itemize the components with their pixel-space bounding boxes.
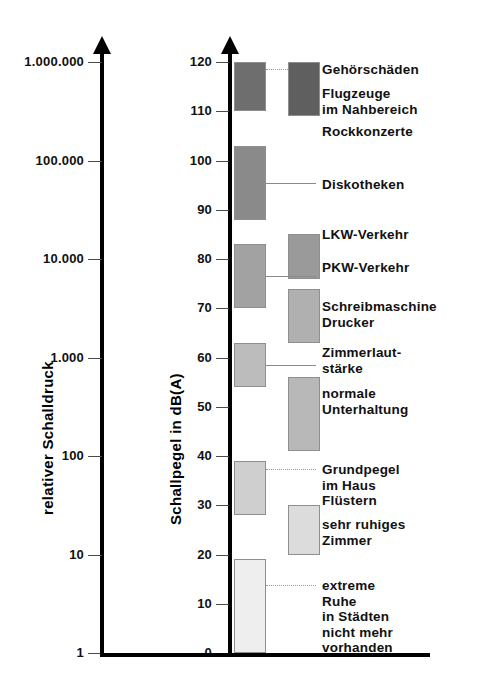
left-axis-tick-label: 1.000 bbox=[0, 350, 84, 365]
left-axis-line bbox=[100, 52, 104, 656]
noise-range-bar bbox=[288, 62, 320, 116]
left-axis-tick-label: 1.000.000 bbox=[0, 54, 84, 69]
noise-range-bar bbox=[288, 289, 320, 343]
db-axis-tick-label: 100 bbox=[176, 153, 212, 168]
db-axis-tick bbox=[216, 210, 229, 211]
left-axis-tick bbox=[88, 358, 102, 359]
noise-range-bar bbox=[288, 234, 320, 278]
category-label: Diskotheken bbox=[322, 177, 404, 193]
category-label: Zimmerlaut- stärke bbox=[322, 345, 401, 376]
left-axis-tick-label: 10 bbox=[0, 547, 84, 562]
category-label: Schreibmaschine Drucker bbox=[322, 299, 437, 330]
label-leader-line bbox=[266, 585, 316, 586]
left-axis-tick-label: 100 bbox=[0, 448, 84, 463]
noise-level-chart: relativer Schalldruck 1.000.000100.00010… bbox=[0, 0, 478, 678]
db-axis-tick bbox=[216, 555, 229, 556]
noise-range-bar bbox=[288, 505, 320, 554]
db-axis-tick bbox=[216, 358, 229, 359]
db-axis-tick-label: 80 bbox=[176, 251, 212, 266]
noise-range-bar bbox=[234, 343, 266, 387]
db-axis-tick-label: 30 bbox=[176, 497, 212, 512]
noise-range-bar bbox=[288, 377, 320, 451]
noise-range-bar bbox=[234, 244, 266, 308]
category-label: sehr ruhiges Zimmer bbox=[322, 517, 405, 548]
category-label: Gehörschäden bbox=[322, 62, 419, 78]
label-leader-line bbox=[266, 276, 316, 277]
label-leader-line bbox=[266, 365, 316, 366]
left-axis-title: relativer Schalldruck bbox=[39, 361, 56, 515]
left-axis-tick bbox=[88, 259, 102, 260]
noise-range-bar bbox=[234, 559, 266, 653]
left-axis-tick-label: 1 bbox=[0, 645, 84, 660]
db-axis-tick bbox=[216, 111, 229, 112]
db-axis-tick bbox=[216, 505, 229, 506]
db-axis-tick bbox=[216, 259, 229, 260]
left-axis-tick bbox=[88, 62, 102, 63]
db-axis-tick-label: 60 bbox=[176, 350, 212, 365]
db-axis-tick bbox=[216, 407, 229, 408]
db-axis-tick-label: 90 bbox=[176, 202, 212, 217]
db-axis-tick-label: 40 bbox=[176, 448, 212, 463]
category-label: Grundpegel im Haus Flüstern bbox=[322, 462, 400, 509]
db-axis-tick bbox=[216, 604, 229, 605]
db-axis-tick bbox=[216, 456, 229, 457]
db-axis-tick-label: 120 bbox=[176, 54, 212, 69]
left-axis-tick-label: 100.000 bbox=[0, 153, 84, 168]
label-leader-line bbox=[266, 469, 316, 470]
category-label: LKW-Verkehr bbox=[322, 227, 409, 243]
left-axis-arrow-icon bbox=[93, 36, 111, 54]
db-axis-tick-label: 110 bbox=[176, 103, 212, 118]
noise-range-bar bbox=[234, 62, 266, 111]
db-axis-line bbox=[228, 52, 232, 656]
category-label: normale Unterhaltung bbox=[322, 386, 408, 417]
category-label: Flugzeuge im Nahbereich bbox=[322, 86, 418, 117]
category-label: extreme Ruhe in Städten nicht mehr vorha… bbox=[322, 578, 393, 656]
left-axis-tick-label: 10.000 bbox=[0, 251, 84, 266]
db-axis-tick bbox=[216, 308, 229, 309]
label-leader-line bbox=[266, 183, 316, 184]
left-axis-tick bbox=[88, 456, 102, 457]
category-label: PKW-Verkehr bbox=[322, 260, 409, 276]
category-label: Rockkonzerte bbox=[322, 124, 413, 140]
db-axis-tick bbox=[216, 62, 229, 63]
db-axis-tick-label: 70 bbox=[176, 300, 212, 315]
noise-range-bar bbox=[234, 146, 266, 220]
db-axis-tick-label: 20 bbox=[176, 547, 212, 562]
db-axis-tick-label: 50 bbox=[176, 399, 212, 414]
left-axis-tick bbox=[88, 555, 102, 556]
db-axis-arrow-icon bbox=[221, 36, 239, 54]
noise-range-bar bbox=[234, 461, 266, 515]
db-axis-tick-label: 10 bbox=[176, 596, 212, 611]
left-axis-tick bbox=[88, 161, 102, 162]
db-axis-tick bbox=[216, 161, 229, 162]
